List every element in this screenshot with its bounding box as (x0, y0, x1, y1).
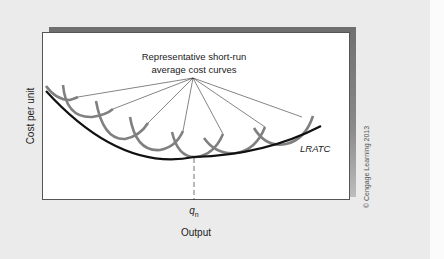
leader-lines (78, 78, 302, 134)
annotation-line-1: Representative short-run (142, 51, 247, 62)
lratc-label: LRATC (300, 143, 330, 154)
x-tick-subscript: n (195, 211, 199, 218)
copyright-notice: © Cengage Learning 2013 (363, 126, 370, 208)
cost-curves-diagram (0, 0, 444, 259)
annotation-line-2: average cost curves (151, 64, 236, 75)
y-axis-label: Cost per unit (25, 88, 36, 145)
x-axis-label: Output (181, 227, 211, 238)
x-tick-qn: qn (189, 205, 198, 218)
lratc-curve (46, 91, 321, 159)
